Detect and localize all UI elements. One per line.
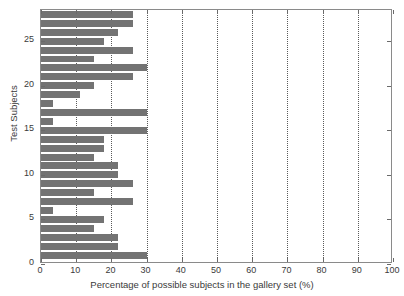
x-tick-label-10: 10 (60, 265, 90, 275)
x-tick-top-60 (252, 10, 253, 14)
y-axis-label: Test Subjects (8, 49, 19, 179)
x-tick-label-60: 60 (236, 265, 266, 275)
y-tick-20 (41, 86, 45, 87)
bar-subject-20 (41, 82, 94, 89)
y-tick-10 (41, 175, 45, 176)
bar-subject-10 (41, 171, 118, 178)
y-tick-right-20 (387, 86, 391, 87)
bar-subject-2 (41, 243, 118, 250)
bar-series (41, 10, 391, 262)
x-tick-top-40 (182, 10, 183, 14)
x-tick-20 (111, 258, 112, 262)
bar-subject-28 (41, 11, 133, 18)
x-tick-80 (323, 258, 324, 262)
y-tick-right-25 (387, 41, 391, 42)
x-tick-label-80: 80 (307, 265, 337, 275)
bar-subject-5 (41, 216, 104, 223)
x-tick-top-100 (393, 10, 394, 14)
y-tick-label-5: 5 (8, 212, 34, 222)
x-tick-label-70: 70 (271, 265, 301, 275)
x-tick-top-80 (323, 10, 324, 14)
x-tick-60 (252, 258, 253, 262)
x-tick-40 (182, 258, 183, 262)
x-tick-top-70 (287, 10, 288, 14)
bar-subject-4 (41, 225, 94, 232)
bar-subject-1 (41, 252, 147, 259)
bar-chart-figure: 0102030405060708090100 0510152025 Percen… (0, 0, 404, 296)
y-tick-15 (41, 130, 45, 131)
bar-subject-19 (41, 91, 80, 98)
x-tick-label-50: 50 (201, 265, 231, 275)
plot-area (40, 9, 392, 263)
bar-subject-23 (41, 56, 94, 63)
bar-subject-25 (41, 38, 104, 45)
y-tick-label-25: 25 (8, 34, 34, 44)
y-tick-right-5 (387, 219, 391, 220)
bar-subject-18 (41, 100, 53, 107)
y-tick-5 (41, 219, 45, 220)
bar-subject-9 (41, 180, 133, 187)
bar-subject-21 (41, 73, 133, 80)
bar-subject-27 (41, 20, 133, 27)
x-tick-label-90: 90 (342, 265, 372, 275)
y-tick-right-15 (387, 130, 391, 131)
x-tick-100 (393, 258, 394, 262)
x-tick-0 (41, 258, 42, 262)
bar-subject-17 (41, 109, 147, 116)
bar-subject-11 (41, 162, 118, 169)
bar-subject-14 (41, 136, 104, 143)
bar-subject-8 (41, 189, 94, 196)
x-tick-10 (76, 258, 77, 262)
bar-subject-6 (41, 207, 53, 214)
x-tick-30 (147, 258, 148, 262)
bar-subject-7 (41, 198, 133, 205)
bar-subject-22 (41, 64, 147, 71)
y-tick-25 (41, 41, 45, 42)
bar-subject-3 (41, 234, 118, 241)
bar-subject-26 (41, 29, 118, 36)
bar-subject-13 (41, 145, 104, 152)
x-tick-50 (217, 258, 218, 262)
x-tick-top-20 (111, 10, 112, 14)
bar-subject-15 (41, 127, 147, 134)
x-tick-top-50 (217, 10, 218, 14)
x-axis-label: Percentage of possible subjects in the g… (0, 279, 404, 290)
x-tick-label-40: 40 (166, 265, 196, 275)
y-tick-label-0: 0 (8, 257, 34, 267)
x-tick-top-30 (147, 10, 148, 14)
x-tick-top-10 (76, 10, 77, 14)
x-tick-90 (358, 258, 359, 262)
x-tick-top-90 (358, 10, 359, 14)
x-tick-label-20: 20 (95, 265, 125, 275)
x-tick-top-0 (41, 10, 42, 14)
bar-subject-12 (41, 154, 94, 161)
bar-subject-24 (41, 47, 133, 54)
x-tick-label-30: 30 (131, 265, 161, 275)
x-tick-70 (287, 258, 288, 262)
y-tick-right-10 (387, 175, 391, 176)
bar-subject-16 (41, 118, 53, 125)
x-tick-label-100: 100 (377, 265, 404, 275)
